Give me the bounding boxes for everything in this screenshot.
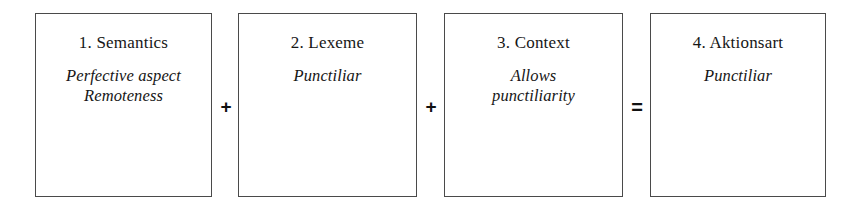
node-heading: 3. Context [445, 34, 622, 51]
aktionsart-equation-diagram: 1. Semantics Perfective aspect Remotenes… [0, 0, 866, 211]
node-heading: 2. Lexeme [239, 34, 416, 51]
equals-operator: = [626, 96, 648, 118]
node-detail-line: Allows [445, 66, 622, 86]
node-detail-group: Allows punctiliarity [445, 66, 622, 106]
node-box-context: 3. Context Allows punctiliarity [444, 13, 623, 197]
node-detail-line: Perfective aspect [36, 66, 211, 86]
node-box-lexeme: 2. Lexeme Punctiliar [238, 13, 417, 197]
node-detail-group: Perfective aspect Remoteness [36, 66, 211, 106]
plus-operator-1: + [215, 96, 237, 118]
node-detail-line: punctiliarity [445, 86, 622, 106]
node-detail-line: Punctiliar [651, 66, 825, 86]
node-box-semantics: 1. Semantics Perfective aspect Remotenes… [35, 13, 212, 197]
node-box-aktionsart: 4. Aktionsart Punctiliar [650, 13, 826, 197]
node-detail-line: Remoteness [36, 86, 211, 106]
node-detail-group: Punctiliar [651, 66, 825, 86]
plus-operator-2: + [420, 96, 442, 118]
node-heading: 4. Aktionsart [651, 34, 825, 51]
node-heading: 1. Semantics [36, 34, 211, 51]
node-detail-group: Punctiliar [239, 66, 416, 86]
node-detail-line: Punctiliar [239, 66, 416, 86]
